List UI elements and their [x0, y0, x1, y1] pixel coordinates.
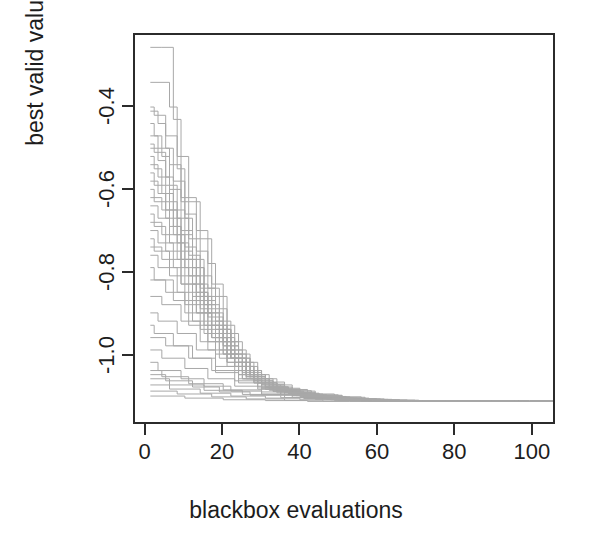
series-line: [150, 144, 553, 401]
series-canvas: [135, 35, 553, 422]
series-line: [150, 313, 553, 402]
series-line: [150, 214, 553, 401]
series-line: [150, 107, 553, 401]
series-line: [150, 189, 553, 401]
series-line: [150, 181, 553, 401]
convergence-plot-figure: 020406080100-0.4-0.6-0.8-1.0 blackbox ev…: [0, 0, 592, 551]
y-axis-tick-label: -0.8: [96, 253, 118, 291]
x-axis-tick: [453, 424, 455, 435]
plot-area: [133, 33, 555, 424]
y-axis-tick: [122, 354, 133, 356]
series-line: [150, 231, 553, 402]
x-axis-title: blackbox evaluations: [0, 497, 592, 524]
series-line: [150, 338, 553, 402]
y-axis-title: best valid value: [11, 0, 59, 262]
y-axis-tick: [122, 188, 133, 190]
series-line: [150, 280, 553, 401]
x-axis-tick: [376, 424, 378, 435]
x-axis-tick-label: 80: [442, 441, 466, 463]
x-axis-tick: [221, 424, 223, 435]
series-line: [150, 198, 553, 402]
series-line: [150, 268, 553, 402]
x-axis-tick: [144, 424, 146, 435]
series-line: [150, 124, 553, 402]
y-axis-tick-label: -0.4: [96, 87, 118, 125]
x-axis-tick-label: 0: [138, 441, 150, 463]
series-line: [150, 247, 553, 401]
series-line: [150, 362, 553, 401]
series-line: [150, 156, 553, 401]
series-line: [150, 255, 553, 401]
series-line: [150, 82, 553, 401]
series-line: [150, 47, 553, 401]
y-axis-tick-label: -1.0: [96, 336, 118, 374]
series-line: [150, 222, 553, 401]
series-line: [150, 165, 553, 402]
series-line: [150, 296, 553, 401]
series-line: [150, 136, 553, 402]
x-axis-tick-label: 20: [210, 441, 234, 463]
y-axis-tick-label: -0.6: [96, 170, 118, 208]
x-axis-tick: [298, 424, 300, 435]
x-axis-tick: [531, 424, 533, 435]
series-line: [150, 173, 553, 401]
x-axis-tick-label: 40: [287, 441, 311, 463]
series-line: [150, 148, 553, 401]
series-line: [150, 206, 553, 402]
x-axis-tick-label: 100: [513, 441, 550, 463]
x-axis-tick-label: 60: [365, 441, 389, 463]
y-axis-tick: [122, 105, 133, 107]
y-axis-tick: [122, 271, 133, 273]
